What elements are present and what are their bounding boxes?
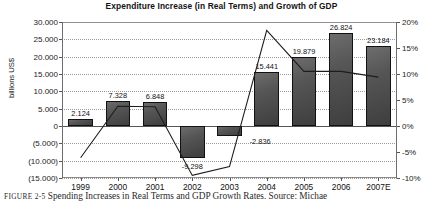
y-axis-tick-label: 30.000 — [34, 18, 58, 27]
y-axis-tick-label: (5.000) — [33, 139, 58, 148]
chart-title: Expenditure Increase (in Real Terms) and… — [0, 1, 443, 11]
y2-axis-tick-label: 0% — [402, 122, 414, 131]
y-axis-tick-label: 25.000 — [34, 35, 58, 44]
figure-number: FIGURE 2-5 — [4, 192, 45, 201]
x-axis-tick — [192, 178, 193, 181]
y2-axis-tick-label: 10% — [402, 70, 418, 79]
y-axis-tick — [59, 178, 62, 179]
caption-text: Spending Increases in Real Terms and GDP… — [48, 191, 327, 201]
y-axis-tick-label: 15.000 — [34, 70, 58, 79]
figure-caption: FIGURE 2-5 Spending Increases in Real Te… — [4, 191, 443, 201]
x-axis-tick — [304, 178, 305, 181]
x-axis-tick — [341, 178, 342, 181]
y2-axis-tick-label: 5% — [402, 96, 414, 105]
x-axis-tick — [378, 178, 379, 181]
y2-axis-tick-label: 20% — [402, 18, 418, 27]
y2-axis-tick — [397, 152, 400, 153]
y-axis-tick-label: (10.000) — [28, 156, 58, 165]
x-axis-tick — [81, 178, 82, 181]
axis-left-line — [62, 22, 63, 178]
x-axis-tick — [230, 178, 231, 181]
x-axis-tick — [118, 178, 119, 181]
gdp-growth-line — [62, 22, 397, 178]
y2-axis-tick — [397, 178, 400, 179]
y2-axis-tick-label: -5% — [402, 148, 416, 157]
x-axis-tick — [267, 178, 268, 181]
y2-axis-tick-label: 15% — [402, 44, 418, 53]
y2-axis-tick-label: -10% — [402, 174, 421, 183]
y-axis-title-label: billions US$ — [7, 58, 16, 98]
y-axis-tick-label: 10.000 — [34, 87, 58, 96]
y2-axis-tick — [397, 100, 400, 101]
y2-axis-tick — [397, 74, 400, 75]
y-axis-title: billions US$ — [6, 78, 16, 79]
figure-container: Expenditure Increase (in Real Terms) and… — [0, 0, 443, 204]
plot-area: 30.00025.00020.00015.00010.0005.0000(5.0… — [62, 22, 397, 178]
y-axis-tick-label: (15.000) — [28, 174, 58, 183]
axis-right-line — [396, 22, 397, 178]
y2-axis-tick — [397, 126, 400, 127]
gdp-growth-polyline — [81, 30, 379, 175]
y-axis-tick-label: 0 — [54, 122, 58, 131]
y2-axis-tick — [397, 48, 400, 49]
y-axis-tick-label: 20.000 — [34, 52, 58, 61]
y2-axis-tick — [397, 22, 400, 23]
y-axis-tick-label: 5.000 — [38, 104, 58, 113]
x-axis-tick — [155, 178, 156, 181]
